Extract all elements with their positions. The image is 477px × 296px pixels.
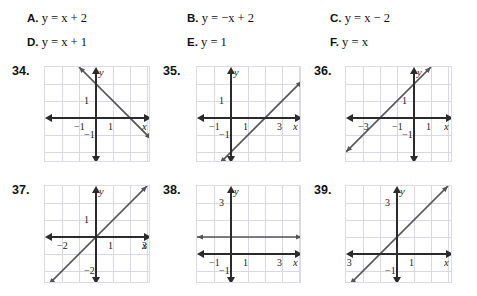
tick-label: 1 [409, 257, 414, 268]
x-axis [350, 117, 449, 119]
choice-a: A. y = x + 2 [27, 12, 87, 25]
tick-label: 1 [426, 121, 431, 132]
y-axis-label: y [400, 186, 405, 197]
coordinate-grid: xy3−113−1 [196, 185, 301, 283]
x-axis-arrow-left [45, 233, 52, 241]
choice-c-equation: y = x − 2 [345, 11, 390, 25]
choice-b-equation: y = −x + 2 [202, 11, 254, 25]
choice-c: C. y = x − 2 [330, 12, 390, 25]
tick-label: −1 [84, 129, 95, 140]
y-axis-arrow-down [410, 156, 418, 162]
x-axis-label: x [142, 121, 147, 132]
y-axis-label: y [99, 67, 104, 78]
function-line [45, 67, 150, 162]
y-axis [396, 190, 398, 280]
choice-b-label: B. [187, 12, 199, 24]
tick-label: 3 [219, 197, 224, 208]
y-axis [413, 71, 415, 159]
equation-choices: A. y = x + 2 B. y = −x + 2 C. y = x − 2 … [0, 0, 477, 54]
tick-label: −1 [219, 265, 230, 276]
y-axis-arrow-down [227, 277, 235, 283]
y-axis-label: y [417, 67, 422, 78]
x-axis-label: x [293, 257, 298, 268]
x-axis [201, 253, 298, 255]
x-axis [201, 117, 298, 119]
x-axis-arrow-left [197, 250, 204, 258]
y-axis [95, 190, 97, 280]
tick-label: 1 [243, 121, 248, 132]
choice-a-equation: y = x + 2 [42, 11, 87, 25]
choice-d-label: D. [27, 36, 39, 48]
function-line [197, 186, 301, 283]
tick-label: 3 [277, 121, 282, 132]
y-axis-label: y [234, 186, 239, 197]
y-axis [95, 71, 97, 159]
function-line [346, 186, 452, 283]
choice-c-label: C. [330, 12, 342, 24]
panel-number: 34. [12, 64, 29, 78]
tick-label: 1 [243, 257, 248, 268]
function-line [45, 186, 150, 283]
choice-f-label: F. [330, 36, 339, 48]
tick-label: −1 [219, 129, 230, 140]
y-axis-arrow-down [393, 277, 401, 283]
x-axis-label: x [444, 257, 449, 268]
x-axis-label: x [444, 121, 449, 132]
coordinate-grid: xy1−113−1 [196, 66, 301, 162]
x-axis-arrow-left [346, 114, 353, 122]
y-axis-arrow-down [92, 277, 100, 283]
coordinate-grid: xy1−3−11−1 [345, 66, 452, 162]
x-axis [49, 117, 147, 119]
choice-b: B. y = −x + 2 [187, 12, 254, 25]
tick-label: −2 [57, 240, 68, 251]
x-axis-arrow-left [45, 114, 52, 122]
choice-e-equation: y = 1 [201, 35, 227, 49]
tick-label: −2 [84, 265, 95, 276]
coordinate-grid: xy1−11−1 [44, 66, 150, 162]
tick-label: −3 [345, 257, 352, 268]
y-axis-arrow-down [92, 156, 100, 162]
y-axis [230, 190, 232, 280]
x-axis-arrow-left [197, 114, 204, 122]
tick-label: 1 [108, 121, 113, 132]
worksheet-page: A. y = x + 2 B. y = −x + 2 C. y = x − 2 … [0, 0, 477, 296]
tick-label: 3 [142, 240, 147, 251]
tick-label: −1 [402, 129, 413, 140]
choice-f: F. y = x [330, 36, 368, 49]
x-axis [49, 236, 147, 238]
choice-f-equation: y = x [342, 35, 368, 49]
tick-label: 1 [84, 95, 89, 106]
panel-number: 35. [163, 64, 180, 78]
tick-label: 1 [108, 240, 113, 251]
panel-number: 37. [12, 183, 29, 197]
x-axis-label: x [293, 121, 298, 132]
choice-d-equation: y = x + 1 [42, 35, 87, 49]
panel-number: 36. [314, 64, 331, 78]
y-axis-label: y [234, 67, 239, 78]
x-axis [350, 253, 449, 255]
y-axis [230, 71, 232, 159]
y-axis-label: y [99, 186, 104, 197]
tick-label: 1 [402, 95, 407, 106]
function-line [197, 67, 301, 162]
tick-label: −3 [358, 121, 369, 132]
tick-label: −1 [385, 265, 396, 276]
choice-a-label: A. [27, 12, 39, 24]
panel-number: 39. [314, 183, 331, 197]
coordinate-grid: xy3−31−1 [345, 185, 452, 283]
choice-e-label: E. [187, 36, 198, 48]
y-axis-arrow-down [227, 156, 235, 162]
tick-label: 3 [385, 197, 390, 208]
choice-e: E. y = 1 [187, 36, 227, 49]
coordinate-grid: xy1−213−2 [44, 185, 150, 283]
tick-label: 1 [219, 95, 224, 106]
tick-label: 1 [84, 214, 89, 225]
panel-number: 38. [163, 183, 180, 197]
function-line [346, 67, 452, 162]
choice-d: D. y = x + 1 [27, 36, 87, 49]
tick-label: 3 [277, 257, 282, 268]
